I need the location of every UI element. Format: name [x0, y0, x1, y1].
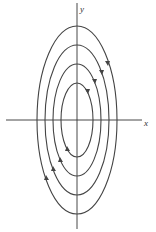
x-axis-label: x [143, 118, 148, 128]
arrow-down-icon [99, 70, 104, 75]
arrow-down-icon [92, 79, 97, 84]
phase-portrait: y x [0, 0, 156, 232]
y-axis-label: y [79, 4, 84, 14]
